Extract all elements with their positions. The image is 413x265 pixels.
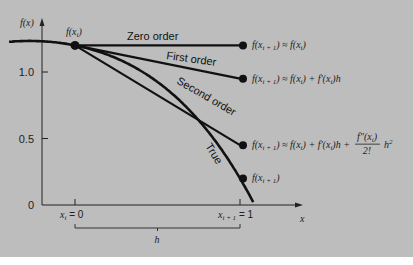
h-brace bbox=[75, 224, 240, 228]
true-point bbox=[239, 174, 247, 182]
y-tick-label: 1.0 bbox=[19, 66, 34, 78]
y-tick-label: 0 bbox=[28, 199, 34, 211]
true-curve bbox=[9, 41, 253, 202]
first-order-point bbox=[239, 75, 247, 83]
second-order-formula: f(xi + 1) ≈ f(xi) + f′(xi)h + bbox=[252, 139, 350, 152]
h-label: h bbox=[155, 234, 160, 245]
x-axis-label: x bbox=[299, 213, 305, 224]
x-axis-arrow bbox=[295, 203, 303, 208]
second-order-point bbox=[239, 141, 247, 149]
y-axis-label: f(x) bbox=[20, 17, 35, 29]
true-label: True bbox=[203, 141, 225, 166]
zero-order-label: Zero order bbox=[127, 30, 179, 42]
x-tick-label-xi1: xi + 1 = 1 bbox=[217, 209, 254, 222]
x-tick-label-xi: xi = 0 bbox=[59, 209, 84, 222]
start-point-label: f(xi) bbox=[66, 26, 83, 39]
second-order-h2: h2 bbox=[384, 138, 393, 150]
zero-order-point bbox=[239, 41, 247, 49]
zero-order-formula: f(xi + 1) ≈ f(xi) bbox=[252, 39, 307, 52]
second-order-fraction-den: 2! bbox=[363, 145, 371, 156]
start-point bbox=[71, 41, 80, 50]
true-value-label: f(xi + 1) bbox=[252, 172, 280, 185]
y-axis-arrow bbox=[40, 18, 45, 26]
taylor-series-chart: f(x)x00.51.0xi = 0xi + 1 = 1h f(xi)Zero … bbox=[0, 0, 413, 265]
first-order-formula: f(xi + 1) ≈ f(xi) + f′(xi)h bbox=[252, 73, 341, 86]
y-tick-label: 0.5 bbox=[19, 133, 34, 145]
second-order-fraction-num: f″(xi) bbox=[357, 131, 378, 144]
